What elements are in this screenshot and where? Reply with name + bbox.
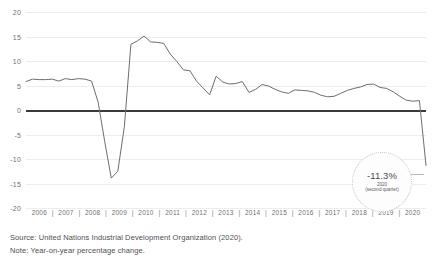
x-tick-label-2020: 2020 xyxy=(405,209,420,216)
x-tick-separator: | xyxy=(212,209,214,216)
y-tick-label: -5 xyxy=(14,131,21,138)
x-tick-separator: | xyxy=(52,209,54,216)
x-axis: 2006|2007|2008|2009|2010|2011|2012|2013|… xyxy=(26,209,426,223)
x-tick-separator: | xyxy=(265,209,267,216)
y-tick-label: -20 xyxy=(10,205,21,212)
y-tick-label: -10 xyxy=(10,156,21,163)
x-tick-label-2017: 2017 xyxy=(325,209,340,216)
y-tick-label: 5 xyxy=(17,82,21,89)
x-tick-separator: | xyxy=(105,209,107,216)
x-tick-label-2016: 2016 xyxy=(298,209,313,216)
footnotes: Source: United Nations Industrial Develo… xyxy=(10,231,425,257)
x-tick-label-2009: 2009 xyxy=(112,209,127,216)
x-tick-separator: | xyxy=(78,209,80,216)
x-tick-label-2006: 2006 xyxy=(32,209,47,216)
x-tick-separator: | xyxy=(185,209,187,216)
x-tick-label-2011: 2011 xyxy=(165,209,180,216)
y-tick-label: 15 xyxy=(13,33,21,40)
x-tick-label-2012: 2012 xyxy=(192,209,207,216)
callout-period: (second quarter) xyxy=(365,187,399,193)
x-tick-label-2014: 2014 xyxy=(245,209,260,216)
y-tick-label: 10 xyxy=(13,58,21,65)
x-tick-label-2018: 2018 xyxy=(352,209,367,216)
x-tick-separator: | xyxy=(398,209,400,216)
source-note: Source: United Nations Industrial Develo… xyxy=(10,231,425,244)
x-tick-label-2007: 2007 xyxy=(58,209,73,216)
x-tick-separator: | xyxy=(158,209,160,216)
x-tick-separator: | xyxy=(318,209,320,216)
x-tick-label-2015: 2015 xyxy=(272,209,287,216)
y-tick-label: 20 xyxy=(13,9,21,16)
y-tick-label: -15 xyxy=(10,180,21,187)
second-quarter-2020-callout: -11.3% 2020 (second quarter) xyxy=(352,152,412,212)
x-tick-label-2013: 2013 xyxy=(218,209,233,216)
methodology-note: Note: Year-on-year percentage change. xyxy=(10,244,425,257)
x-tick-separator: | xyxy=(238,209,240,216)
y-tick-label: 0 xyxy=(17,107,21,114)
callout-value: -11.3% xyxy=(367,171,397,181)
chart-figure: 20151050-5-10-15-20 2006|2007|2008|2009|… xyxy=(0,0,435,268)
x-tick-label-2010: 2010 xyxy=(138,209,153,216)
x-tick-separator: | xyxy=(292,209,294,216)
x-tick-separator: | xyxy=(132,209,134,216)
x-tick-label-2008: 2008 xyxy=(85,209,100,216)
x-tick-separator: | xyxy=(345,209,347,216)
